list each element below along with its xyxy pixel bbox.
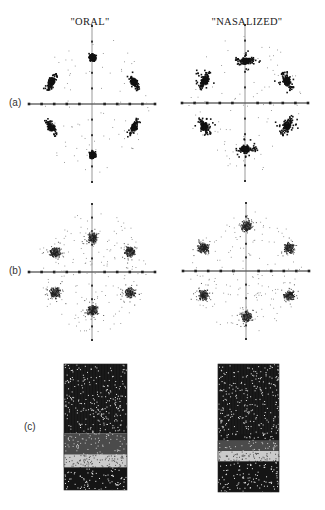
spectrogram-oral: [64, 364, 128, 491]
spectrogram-nasalized: [218, 364, 280, 493]
plot-a-oral: [28, 25, 157, 183]
plot-b-oral: [28, 203, 157, 341]
plot-b-nasalized: [182, 202, 311, 340]
figure-canvas: [0, 0, 325, 510]
plot-a-nasalized: [181, 24, 310, 182]
